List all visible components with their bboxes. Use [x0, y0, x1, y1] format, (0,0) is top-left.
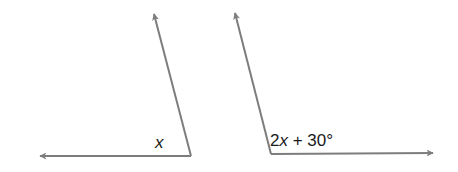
left-angle-label: x: [155, 134, 164, 151]
label-variable: x: [155, 133, 164, 152]
right-angle-upper-ray: [235, 13, 271, 154]
angles-figure: [0, 0, 458, 172]
right-angle-label: 2x + 30°: [270, 132, 333, 149]
left-angle: [40, 14, 191, 156]
right-angle: [235, 13, 433, 154]
label-suffix: + 30°: [288, 131, 333, 150]
right-angle-horizontal-ray: [271, 153, 433, 154]
label-variable: x: [279, 131, 288, 150]
